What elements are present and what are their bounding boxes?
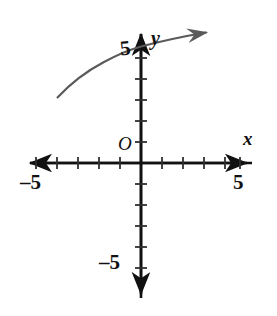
x-tick-label-positive-five: 5: [233, 172, 244, 193]
y-tick-label-positive-five: 5: [119, 38, 132, 60]
graph-figure: y x O 5 –5 –5 5: [0, 0, 277, 316]
x-tick-label-negative-five: –5: [20, 172, 41, 193]
plotted-curve: [58, 33, 207, 98]
coordinate-plane-svg: [0, 0, 277, 316]
origin-label: O: [118, 134, 132, 153]
y-axis-label: y: [151, 28, 160, 48]
curve-path: [58, 33, 207, 98]
x-axis-label: x: [243, 129, 253, 148]
y-tick-label-negative-five: –5: [99, 252, 120, 273]
